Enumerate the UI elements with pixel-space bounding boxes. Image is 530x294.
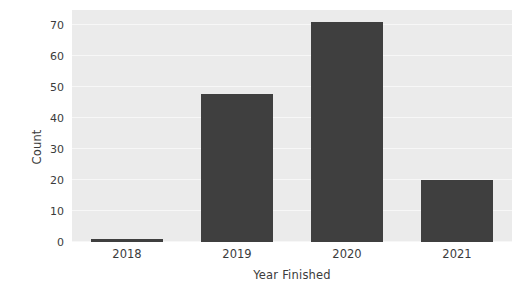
gridline: [72, 55, 512, 56]
y-axis-tick-labels: 010203040506070: [0, 0, 72, 294]
y-tick-label: 50: [8, 81, 72, 94]
gridline: [72, 86, 512, 87]
bar-2021[interactable]: [421, 180, 493, 242]
gridline: [72, 24, 512, 25]
gridline: [72, 117, 512, 118]
x-tick-label: 2019: [222, 247, 251, 261]
x-axis-title: Year Finished: [72, 268, 512, 282]
gridline: [72, 148, 512, 149]
y-tick-label: 20: [8, 174, 72, 187]
plot-area: [72, 10, 512, 242]
x-tick-label: 2021: [442, 247, 471, 261]
x-tick-label: 2020: [332, 247, 361, 261]
y-tick-label: 0: [8, 236, 72, 249]
y-tick-label: 70: [8, 19, 72, 32]
y-tick-label: 30: [8, 143, 72, 156]
bar-2019[interactable]: [201, 94, 273, 242]
y-tick-label: 60: [8, 50, 72, 63]
y-tick-label: 10: [8, 205, 72, 218]
bar-2020[interactable]: [311, 22, 383, 242]
y-tick-label: 40: [8, 112, 72, 125]
bar-2018[interactable]: [91, 239, 163, 242]
bar-chart-figure: Count 010203040506070 2018201920202021 Y…: [0, 0, 530, 294]
x-tick-label: 2018: [112, 247, 141, 261]
